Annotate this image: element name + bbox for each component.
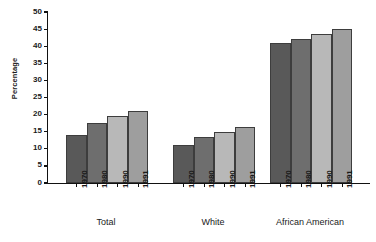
x-tick-mark (97, 183, 98, 187)
figure-caption (40, 234, 370, 242)
bar-chart: Percentage 50454035302520151050 19701980… (0, 0, 376, 242)
y-tick-label: 30 (33, 75, 42, 85)
x-tick-mark (117, 183, 118, 187)
bar-group-0: 1970198019901991 (66, 12, 148, 183)
bar-group-2: 1970198019901991 (270, 12, 352, 183)
x-tick-mark (245, 183, 246, 187)
x-tick-label-year: 1991 (141, 154, 150, 188)
y-tick-label: 20 (33, 109, 42, 119)
y-tick-label: 50 (33, 7, 42, 17)
x-tick-mark (76, 183, 77, 187)
x-tick-mark (224, 183, 225, 187)
y-tick-label: 5 (38, 160, 42, 170)
bar-group-1: 1970198019901991 (173, 12, 255, 183)
y-tick-label: 15 (33, 126, 42, 136)
x-tick-mark (321, 183, 322, 187)
x-tick-mark (204, 183, 205, 187)
x-tick-mark (301, 183, 302, 187)
y-tick-label: 0 (38, 178, 42, 188)
x-tick-label-year: 1991 (345, 154, 354, 188)
group-label-2: African American (250, 217, 370, 227)
y-axis-title: Percentage (10, 39, 19, 119)
plot-area: 50454035302520151050 1970198019901991197… (47, 12, 370, 184)
x-tick-mark (280, 183, 281, 187)
y-tick-label: 10 (33, 143, 42, 153)
x-tick-mark (138, 183, 139, 187)
group-label-0: Total (46, 217, 166, 227)
x-tick-label-year: 1991 (248, 154, 257, 188)
y-tick-label: 35 (33, 58, 42, 68)
y-tick-label: 45 (33, 24, 42, 34)
x-tick-mark (183, 183, 184, 187)
bar-groups: 1970198019901991197019801990199119701980… (48, 12, 370, 183)
y-tick-label: 40 (33, 41, 42, 51)
x-tick-mark (342, 183, 343, 187)
y-tick-label: 25 (33, 92, 42, 102)
